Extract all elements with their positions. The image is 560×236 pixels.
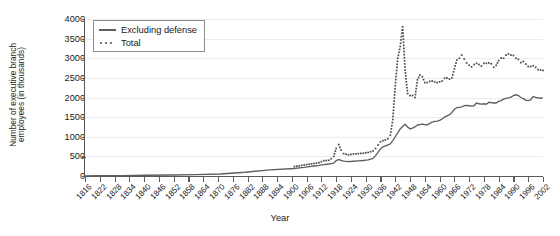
x-axis-tick-mark [188,177,189,182]
x-axis-tick-mark [144,177,145,182]
x-axis-tick-mark [454,177,455,182]
y-axis-title-line-2: employees (in thousands) [17,47,25,142]
x-axis-tick-mark [366,177,367,182]
x-axis-tick-mark [469,177,470,182]
x-axis-tick-mark [218,177,219,182]
y-axis-ticks: 05001000150020002500300035004000 [30,19,85,177]
y-axis-tick-label: 2000 [37,93,85,102]
chart-container: Number of executive branch employees (in… [0,0,560,236]
x-axis-tick-mark [499,177,500,182]
x-axis-tick-mark [115,177,116,182]
y-axis-tick-label: 0 [37,172,85,181]
x-axis-tick-mark [292,177,293,182]
x-axis-tick-mark [129,177,130,182]
x-axis-tick-label: 2002 [533,183,551,201]
y-axis-tick-label: 500 [37,152,85,161]
x-axis-tick-mark [174,177,175,182]
x-axis-tick-mark [351,177,352,182]
x-axis-tick-mark [425,177,426,182]
x-axis-tick-mark [277,177,278,182]
y-axis-tick-label: 2500 [37,73,85,82]
y-axis-tick-label: 4000 [37,15,85,24]
x-axis-tick-mark [543,177,544,182]
x-axis-tick-mark [100,177,101,182]
x-axis-tick-mark [336,177,337,182]
x-axis-tick-mark [159,177,160,182]
x-axis-tick-mark [85,177,86,182]
x-axis-tick-mark [395,177,396,182]
x-axis-tick-mark [248,177,249,182]
y-axis-tick-label: 3000 [37,54,85,63]
x-axis-title: Year [0,212,560,223]
y-axis-tick-label: 1500 [37,113,85,122]
x-axis-tick-mark [307,177,308,182]
series-total [293,26,543,167]
y-axis-tick-label: 3500 [37,34,85,43]
legend-item: Total [99,37,197,48]
legend-label: Total [121,38,141,48]
chart-legend: Excluding defenseTotal [93,20,205,52]
legend-label: Excluding defense [121,25,197,35]
dotted-line-icon [99,38,116,47]
legend-item: Excluding defense [99,24,197,35]
x-axis-tick-mark [321,177,322,182]
y-axis-tick-label: 1000 [37,132,85,141]
x-axis-tick-mark [233,177,234,182]
x-axis-tick-mark [440,177,441,182]
y-axis-title: Number of executive branch employees (in… [0,0,34,190]
x-axis-tick-mark [528,177,529,182]
x-axis-tick-mark [262,177,263,182]
solid-line-icon [99,25,116,34]
x-axis-tick-mark [203,177,204,182]
x-axis-tick-mark [484,177,485,182]
x-axis-tick-mark [410,177,411,182]
